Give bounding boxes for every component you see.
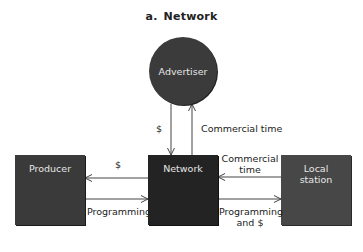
local-station-label-line1: Local [304,163,329,174]
advertiser-label: Advertiser [159,66,208,77]
edge-label-advertiser-commercial-time: Commercial time [201,123,282,134]
edge-label-producer-money: $ [115,159,121,170]
edge-label-line: Programming [219,206,281,217]
edge-label-line: time [220,164,280,175]
edge-label-network-programming-money: Programming and $ [219,206,281,228]
edge-label-line: Commercial [220,153,280,164]
local-station-node: Local station [281,155,351,225]
network-node: Network [148,155,218,225]
edge-label-line: and $ [219,217,281,228]
edge-label-advertiser-money: $ [156,123,162,134]
network-label: Network [163,163,203,174]
edge-label-local-commercial-time: Commercial time [220,153,280,175]
advertiser-node: Advertiser [149,37,217,105]
producer-node: Producer [15,155,85,225]
edge-label-producer-programming: Programming [87,206,147,217]
local-station-label-line2: station [300,174,333,185]
producer-label: Producer [29,163,71,174]
